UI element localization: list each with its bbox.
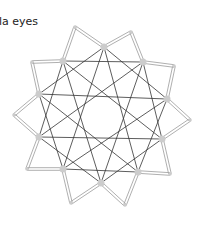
outer-point — [172, 64, 176, 68]
outer-point — [168, 172, 172, 176]
outer-point — [12, 113, 16, 117]
graph-edge — [63, 61, 143, 62]
graph-node — [36, 91, 43, 98]
graph-node — [36, 134, 43, 141]
graph-edge — [101, 62, 143, 183]
graph-node — [60, 166, 67, 173]
graph-edge — [63, 169, 138, 172]
graph-node — [98, 180, 105, 187]
ribbon-line — [130, 32, 142, 62]
star-graph-diagram — [0, 0, 207, 230]
graph-edge — [63, 99, 167, 169]
ribbon-line — [70, 182, 100, 202]
ribbon-line — [15, 114, 40, 136]
graph-edge — [104, 47, 138, 172]
graph-edge — [63, 61, 162, 139]
graph-edge — [39, 94, 167, 99]
graph-node — [140, 59, 147, 66]
ribbon-line — [13, 116, 38, 138]
outer-point — [73, 25, 77, 29]
outer-point — [69, 201, 73, 205]
graph-edge — [104, 47, 167, 99]
graph-node — [164, 96, 171, 103]
ribbon-line — [100, 184, 124, 206]
ribbon-line — [124, 172, 137, 205]
ribbon-line — [13, 93, 38, 114]
ribbon-line — [126, 172, 139, 205]
ribbon-line — [62, 27, 74, 61]
ribbon-line — [32, 62, 63, 63]
graph-edge — [138, 99, 167, 172]
graph-edge — [63, 47, 104, 169]
ribbon-line — [32, 60, 63, 61]
ribbon-line — [138, 171, 170, 173]
graph-node — [135, 169, 142, 176]
outer-point — [129, 30, 133, 34]
graph-edge — [39, 61, 63, 137]
graph-edge — [39, 137, 162, 139]
ribbon-line — [138, 173, 170, 175]
ribbon-line — [168, 98, 191, 119]
ribbon-line — [161, 119, 189, 138]
ribbon-line — [26, 137, 38, 169]
ribbon-line — [103, 31, 130, 46]
ribbon-line — [166, 100, 189, 121]
outer-point — [123, 203, 127, 207]
graph-node — [60, 58, 67, 65]
graph-edge — [39, 94, 63, 169]
outer-point — [25, 167, 29, 171]
graph-edge — [39, 137, 101, 183]
ribbon-line — [28, 137, 40, 169]
node-layer — [36, 44, 171, 187]
graph-edge — [39, 94, 138, 172]
graph-edge — [101, 139, 162, 183]
ribbon-line — [102, 182, 126, 204]
graph-node — [159, 136, 166, 143]
ribbon-line — [15, 95, 40, 116]
ribbon-line — [74, 28, 103, 48]
inner-edge-layer — [39, 47, 167, 183]
outer-point — [30, 60, 34, 64]
ribbon-line — [132, 32, 144, 62]
ribbon-line — [105, 33, 132, 48]
graph-node — [101, 44, 108, 51]
ribbon-line — [64, 27, 76, 61]
ribbon-line — [72, 184, 102, 204]
graph-edge — [143, 62, 162, 139]
ribbon-line — [76, 26, 105, 46]
ribbon-line — [163, 121, 191, 140]
outer-point — [188, 118, 192, 122]
